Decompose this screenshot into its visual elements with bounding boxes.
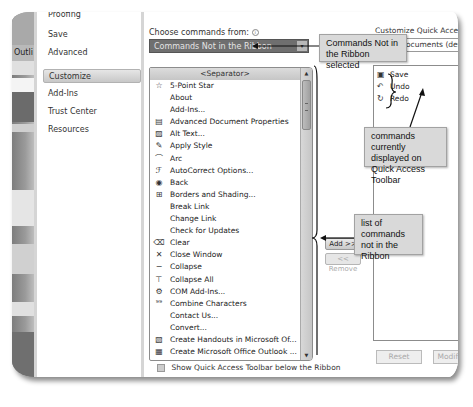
scroll-up-arrow-icon[interactable]: ▲ [301,68,312,78]
list-item[interactable]: ⊞Borders and Shading... [150,189,312,201]
qat-item-label: Redo [390,94,409,103]
options-nav-pane: Proofing Save Advanced Customize Add-Ins… [34,12,144,377]
nav-item-save[interactable]: Save [43,28,141,42]
list-item[interactable]: Add-Ins... [150,104,312,116]
list-item[interactable]: ⚙COM Add-Ins... [150,286,312,298]
list-item-label: AutoCorrect Options... [170,166,253,175]
list-item[interactable]: ▤Advanced Document Properties [150,116,312,128]
list-item[interactable]: ℱAutoCorrect Options... [150,165,312,177]
list-item-label: About [170,93,192,102]
apply-style-icon: ✎ [153,140,165,152]
list-item-label: Apply Style [170,141,212,150]
show-qat-below-checkbox[interactable] [157,364,165,372]
word-options-dialog: Outli Proofing Save Advanced Customize A… [12,12,458,377]
list-item[interactable]: ◉Back [150,177,312,189]
list-item[interactable]: Contact Us... [150,310,312,322]
list-item[interactable]: About [150,92,312,104]
close-icon: ✕ [153,249,165,261]
info-icon: i [252,29,259,36]
background-window-strip: Outli [12,12,34,377]
nav-item-customize[interactable]: Customize [43,69,141,83]
list-item-label: Collapse [170,262,202,271]
list-item[interactable]: ✎Apply Style [150,140,312,152]
choose-commands-label: Choose commands from: i [149,28,259,37]
reset-button[interactable]: Reset [376,350,422,364]
nav-item-add-ins[interactable]: Add-Ins [43,87,141,101]
list-item-separator[interactable]: <Separator> [150,68,300,80]
list-item-label: Create Handouts in Microsoft Of... [170,335,297,344]
list-item[interactable]: ☆5-Point Star [150,80,312,92]
qat-item-redo[interactable]: ↻ Redo [374,93,458,105]
eraser-icon: ⌫ [153,237,165,249]
page: Outli Proofing Save Advanced Customize A… [0,0,473,407]
autocorrect-icon: ℱ [153,165,165,177]
list-item[interactable]: ⁹⁹Combine Characters [150,298,312,310]
com-addins-icon: ⚙ [153,286,165,298]
list-item[interactable]: ▦Create Microsoft Office Outlook ... [150,346,312,358]
list-item[interactable]: −Collapse [150,261,312,273]
alt-text-icon: ▨ [153,128,165,140]
choose-commands-selected: Commands Not in the Ribbon [154,42,272,51]
customize-panel: Choose commands from: i Commands Not in … [147,12,458,377]
scroll-thumb[interactable] [302,80,311,130]
list-item-label: Borders and Shading... [170,190,256,199]
slideshow-icon: ▭ [153,358,165,361]
choose-commands-dropdown[interactable]: Commands Not in the Ribbon ▾ [149,39,309,53]
list-item[interactable]: Convert... [150,322,312,334]
qat-item-save[interactable]: ▣ Save [374,69,458,81]
modify-button[interactable]: Modify... [433,350,458,364]
collapse-icon: − [153,261,165,273]
undo-icon: ↶ [377,81,384,93]
list-item[interactable]: ⊤Collapse All [150,274,312,286]
list-item-label: Add-Ins... [170,105,205,114]
list-item[interactable]: ⌒Arc [150,153,312,165]
list-item[interactable]: ▧Create Handouts in Microsoft Of... [150,334,312,346]
callout-list-of-commands: list of commands not in the Ribbon [354,214,423,255]
list-item-label: Advanced Document Properties [170,117,289,126]
list-item-label: Break Link [170,202,209,211]
callout-commands-not-in-ribbon: Commands Not in the Ribbon selected [319,34,407,62]
list-item[interactable]: Change Link [150,213,312,225]
list-item-label: Change Link [170,214,216,223]
list-item[interactable]: Check for Updates [150,225,312,237]
scroll-down-arrow-icon[interactable]: ▼ [301,350,312,360]
qat-item-label: Undo [390,82,410,91]
list-item-label: Create Slide Show Dis... [170,359,260,361]
list-item[interactable]: ✕Close Window [150,249,312,261]
handouts-icon: ▧ [153,334,165,346]
nav-item-proofing[interactable]: Proofing [43,12,141,22]
nav-item-resources[interactable]: Resources [43,123,141,137]
list-item-label: Alt Text... [170,129,205,138]
list-item-label: Back [170,178,188,187]
background-window-tab: Outli [12,45,34,61]
borders-icon: ⊞ [153,189,165,201]
list-item[interactable]: Break Link [150,201,312,213]
qat-item-undo[interactable]: ↶ Undo [374,81,458,93]
nav-item-trust-center[interactable]: Trust Center [43,105,141,119]
qat-commands-list[interactable]: ▣ Save ↶ Undo ↻ Redo [373,65,458,341]
combine-characters-icon: ⁹⁹ [153,298,165,310]
list-item-label: Contact Us... [170,311,218,320]
list-item[interactable]: ▨Alt Text... [150,128,312,140]
callout-qat-commands: commands currently displayed on Quick Ac… [364,127,447,167]
list-item[interactable]: ▭Create Slide Show Dis... [150,358,312,361]
back-icon: ◉ [153,177,165,189]
list-item[interactable]: ⌫Clear [150,237,312,249]
list-item-label: Collapse All [170,275,214,284]
star-icon: ☆ [153,80,165,92]
redo-icon: ↻ [377,93,384,105]
list-item-label: 5-Point Star [170,81,214,90]
list-item-label: Arc [170,154,182,163]
qat-item-label: Save [390,70,408,79]
list-item-label: Convert... [170,323,207,332]
list-item-label: Check for Updates [170,226,239,235]
outlook-icon: ▦ [153,346,165,358]
list-item-label: Combine Characters [170,299,247,308]
commands-list-scrollbar[interactable]: ▲ ▼ [300,68,312,360]
nav-item-advanced[interactable]: Advanced [43,46,141,60]
arc-icon: ⌒ [153,153,165,165]
commands-list[interactable]: <Separator> ☆5-Point StarAboutAdd-Ins...… [149,67,313,361]
chevron-down-icon[interactable]: ▾ [297,41,307,51]
save-icon: ▣ [377,69,385,81]
show-qat-below-ribbon[interactable]: Show Quick Access Toolbar below the Ribb… [157,363,340,372]
